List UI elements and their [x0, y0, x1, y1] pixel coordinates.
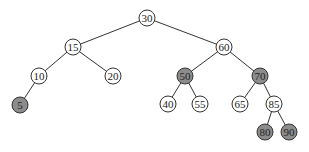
tree-diagram: 301560102050705405565858090 [0, 0, 309, 152]
tree-node-50: 50 [177, 68, 193, 84]
node-label: 10 [34, 70, 46, 82]
tree-node-5: 5 [12, 97, 28, 113]
tree-edges [20, 18, 289, 132]
node-label: 85 [269, 98, 281, 110]
tree-node-90: 90 [281, 124, 297, 140]
tree-node-30: 30 [139, 10, 155, 26]
tree-node-20: 20 [105, 68, 121, 84]
tree-node-65: 65 [232, 96, 248, 112]
tree-node-70: 70 [252, 68, 268, 84]
node-label: 20 [108, 70, 120, 82]
node-label: 40 [163, 98, 175, 110]
node-label: 70 [255, 70, 267, 82]
node-label: 30 [142, 12, 154, 24]
node-label: 90 [284, 126, 296, 138]
node-label: 50 [180, 70, 192, 82]
node-label: 55 [195, 98, 207, 110]
tree-node-55: 55 [192, 96, 208, 112]
tree-edge-30-60 [147, 18, 224, 47]
node-label: 5 [17, 99, 23, 111]
node-label: 65 [235, 98, 247, 110]
tree-node-40: 40 [160, 96, 176, 112]
tree-edge-30-15 [73, 18, 147, 47]
node-label: 60 [219, 41, 231, 53]
tree-node-10: 10 [31, 68, 47, 84]
node-label: 15 [68, 41, 80, 53]
tree-nodes: 301560102050705405565858090 [12, 10, 297, 140]
tree-node-60: 60 [216, 39, 232, 55]
tree-node-80: 80 [257, 124, 273, 140]
tree-node-85: 85 [266, 96, 282, 112]
tree-node-15: 15 [65, 39, 81, 55]
node-label: 80 [260, 126, 272, 138]
